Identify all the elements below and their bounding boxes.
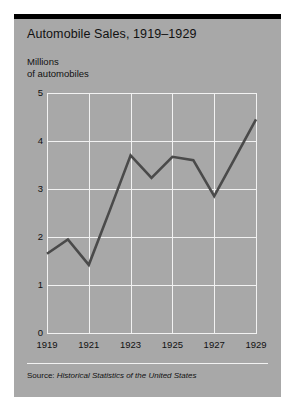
y-axis-tick-labels: 012345 (14, 93, 43, 334)
x-axis-tick-labels: 191919211923192519271929 (47, 339, 262, 353)
x-axis-line (47, 333, 257, 334)
y-axis-tick-label: 5 (21, 87, 43, 98)
data-series-line (47, 93, 256, 333)
y-axis-tick-label: 2 (21, 231, 43, 242)
y-axis-tick-label: 0 (21, 327, 43, 338)
y-axis-caption-line2: of automobiles (27, 68, 89, 80)
y-axis-tick-label: 1 (21, 279, 43, 290)
source-rule (27, 363, 268, 364)
chart-title: Automobile Sales, 1919–1929 (27, 27, 197, 41)
gridline-vertical (256, 93, 257, 333)
x-axis-tick-label: 1919 (27, 339, 67, 350)
y-axis-caption-line1: Millions (27, 56, 89, 68)
source-label: Source: (27, 371, 55, 380)
x-axis-tick-label: 1929 (236, 339, 276, 350)
source-note: Source: Historical Statistics of the Uni… (27, 371, 196, 380)
x-axis-tick-label: 1927 (194, 339, 234, 350)
y-axis-caption: Millions of automobiles (27, 56, 89, 80)
plot-area (47, 93, 256, 333)
title-rule (14, 14, 281, 19)
y-axis-tick-label: 3 (21, 183, 43, 194)
chart-figure: Automobile Sales, 1919–1929 Millions of … (14, 14, 281, 397)
x-axis-tick-label: 1925 (152, 339, 192, 350)
source-title: Historical Statistics of the United Stat… (57, 371, 197, 380)
x-axis-tick-label: 1923 (111, 339, 151, 350)
x-axis-tick-label: 1921 (69, 339, 109, 350)
y-axis-tick-label: 4 (21, 135, 43, 146)
